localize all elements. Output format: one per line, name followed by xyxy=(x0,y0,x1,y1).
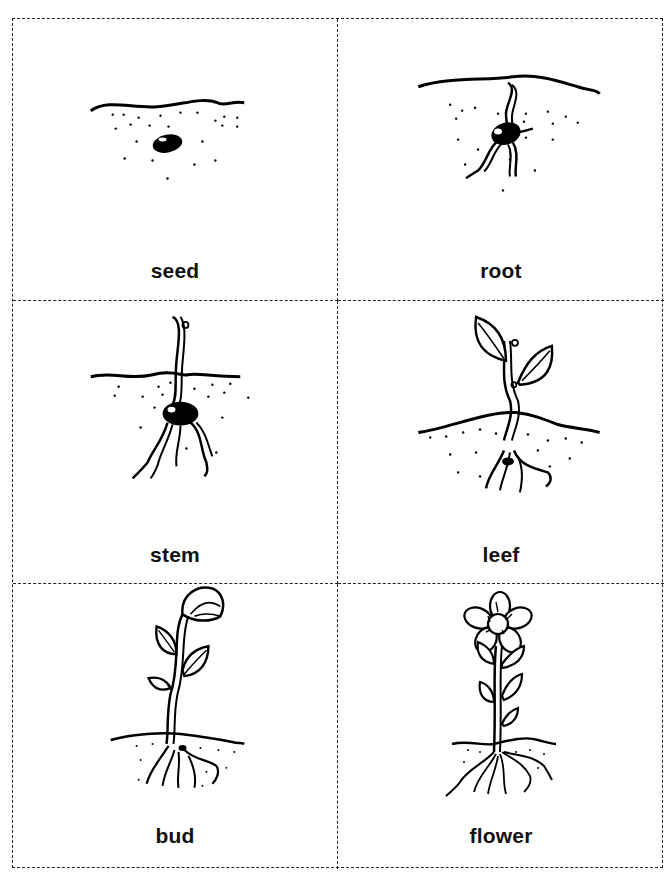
card-label-root: root xyxy=(338,259,664,283)
card-root: root xyxy=(338,19,664,301)
card-flower: flower xyxy=(338,584,664,869)
seedling-leaves-icon xyxy=(338,301,664,583)
card-leef: leef xyxy=(338,301,664,584)
sprouting-root-icon xyxy=(338,19,664,300)
card-stem: stem xyxy=(13,301,338,584)
card-label-bud: bud xyxy=(13,824,337,848)
card-label-stem: stem xyxy=(13,543,337,567)
card-bud: bud xyxy=(13,584,338,869)
card-seed: seed xyxy=(13,19,338,301)
card-label-flower: flower xyxy=(338,824,664,848)
card-grid: seed xyxy=(12,18,663,868)
seed-in-soil-icon xyxy=(13,19,337,300)
card-label-leef: leef xyxy=(338,543,664,567)
cut-out-card-sheet: seed xyxy=(12,18,663,868)
card-label-seed: seed xyxy=(13,259,337,283)
stem-emerging-icon xyxy=(13,301,337,583)
